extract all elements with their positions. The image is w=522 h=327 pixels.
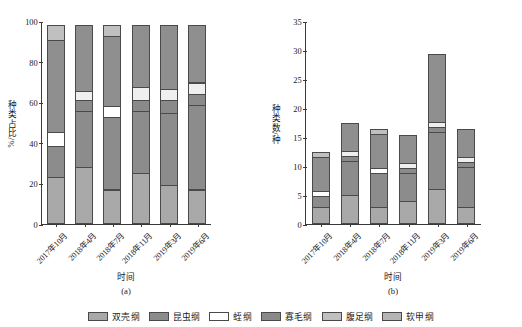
stacked-bar[interactable] [312, 152, 330, 224]
bar-segment [188, 25, 206, 84]
x-tick-label: 2018年4月 [330, 229, 364, 263]
bar-segment [132, 111, 150, 174]
y-tick-label: 5 [297, 192, 306, 201]
stacked-bar[interactable] [75, 25, 93, 224]
legend-item[interactable]: 软甲纲 [382, 310, 434, 323]
bar-segment [341, 123, 359, 152]
bar-slot [306, 22, 335, 224]
x-tick-label: 2018年4月 [64, 229, 98, 263]
stacked-bar[interactable] [399, 135, 417, 224]
bar-slot [127, 22, 155, 224]
legend-label: 昆虫纲 [173, 310, 201, 323]
bar-segment [457, 167, 475, 208]
bar-segment [132, 87, 150, 101]
bar-segment [132, 173, 150, 224]
bar-segment [75, 167, 93, 224]
bar-segment [341, 195, 359, 224]
legend-item[interactable]: 寡毛纲 [261, 310, 313, 323]
stacked-bar[interactable] [188, 25, 206, 224]
bar-segment [47, 177, 65, 224]
bar-segment [47, 132, 65, 146]
bar-segment [399, 201, 417, 224]
stacked-bar[interactable] [103, 25, 121, 224]
bar-segment [47, 25, 65, 41]
x-tick-mark [321, 224, 322, 227]
legend-label: 蛭纲 [233, 310, 251, 323]
x-tick-label: 2019年3月 [149, 229, 183, 263]
y-tick-label: 0 [297, 221, 306, 230]
x-tick-label: 2017年10月 [33, 229, 70, 266]
bar-segment [160, 25, 178, 90]
stacked-bar[interactable] [132, 25, 150, 224]
bar-segment [341, 161, 359, 196]
bar-segment [160, 100, 178, 114]
y-tick-label: 20 [29, 180, 42, 189]
legend-item[interactable]: 蛭纲 [209, 310, 251, 323]
y-tick-label: 60 [29, 99, 42, 108]
bar-segment [47, 146, 65, 178]
stacked-bar[interactable] [47, 25, 65, 224]
bar-segment [428, 132, 446, 190]
legend-swatch [149, 312, 169, 321]
bar-segment [457, 129, 475, 158]
x-tick-mark [141, 224, 142, 227]
x-tick-mark [379, 224, 380, 227]
y-tick-label: 15 [293, 134, 306, 143]
bars-b [306, 22, 481, 224]
x-tick-mark [350, 224, 351, 227]
stacked-bar[interactable] [457, 129, 475, 224]
figure-container: 种类占比/% 2017年10月2018年4月2018年7月2018年11月201… [0, 0, 522, 327]
bar-segment [370, 173, 388, 208]
x-tick-mark [467, 224, 468, 227]
bar-segment [47, 40, 65, 133]
y-tick-label: 10 [293, 163, 306, 172]
y-tick-label: 80 [29, 58, 42, 67]
bar-segment [188, 190, 206, 225]
bar-segment [75, 111, 93, 168]
bar-slot [423, 22, 452, 224]
y-tick-label: 100 [25, 18, 42, 27]
y-tick-label: 25 [293, 76, 306, 85]
legend: 双壳纲昆虫纲蛭纲寡毛纲腹足纲软甲纲 [0, 310, 522, 323]
bar-segment [188, 105, 206, 190]
panel-a: 种类占比/% 2017年10月2018年4月2018年7月2018年11月201… [0, 0, 261, 300]
bar-segment [160, 185, 178, 224]
legend-label: 软甲纲 [406, 310, 434, 323]
bar-slot [364, 22, 393, 224]
x-tick-label: 2018年11月 [386, 229, 422, 265]
legend-item[interactable]: 双壳纲 [88, 310, 140, 323]
legend-swatch [261, 312, 281, 321]
bar-slot [155, 22, 183, 224]
x-tick-mark [56, 224, 57, 227]
bar-slot [98, 22, 126, 224]
stacked-bar[interactable] [370, 129, 388, 224]
y-tick-label: 20 [293, 105, 306, 114]
legend-item[interactable]: 昆虫纲 [149, 310, 201, 323]
bar-segment [103, 190, 121, 225]
legend-swatch [322, 312, 342, 321]
x-tick-mark [198, 224, 199, 227]
bar-slot [394, 22, 423, 224]
legend-swatch [88, 312, 108, 321]
stacked-bar[interactable] [341, 123, 359, 224]
legend-label: 双壳纲 [112, 310, 140, 323]
y-tick-label: 0 [33, 221, 42, 230]
legend-item[interactable]: 腹足纲 [322, 310, 374, 323]
x-axis-label-a: 时间 [41, 270, 211, 282]
bar-segment [370, 207, 388, 224]
legend-swatch [382, 312, 402, 321]
y-tick-label: 40 [29, 139, 42, 148]
bar-slot [335, 22, 364, 224]
bar-slot [42, 22, 70, 224]
y-axis-label-b: 种类数/种 [269, 104, 281, 144]
x-tick-mark [170, 224, 171, 227]
bar-slot [452, 22, 481, 224]
stacked-bar[interactable] [428, 54, 446, 224]
x-tick-mark [85, 224, 86, 227]
bar-segment [399, 135, 417, 164]
bar-segment [370, 134, 388, 169]
stacked-bar[interactable] [160, 25, 178, 224]
bar-segment [428, 189, 446, 224]
x-axis-label-b: 时间 [305, 270, 481, 282]
bar-segment [399, 173, 417, 202]
